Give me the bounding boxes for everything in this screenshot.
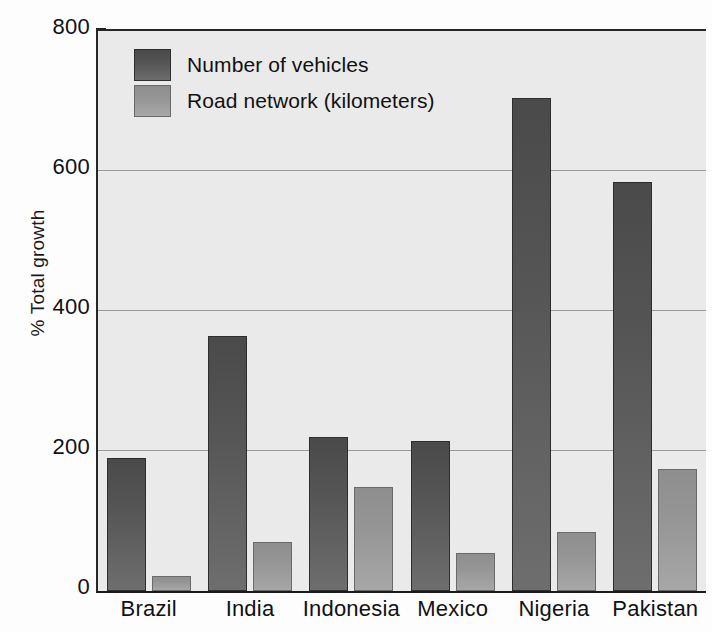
x-axis-ticks: BrazilIndiaIndonesiaMexicoNigeriaPakista… [98, 596, 706, 632]
legend-swatch-icon-number-of-vehicles [134, 49, 171, 81]
bar-india-series-0 [208, 336, 247, 592]
legend-item-road-network: Road network (kilometers) [134, 85, 474, 117]
x-tick-label-brazil: Brazil [98, 596, 199, 622]
bar-indonesia-series-1 [354, 487, 393, 591]
bar-mexico-series-1 [456, 553, 495, 592]
bar-chart-figure: % Total growth 0200400600800 Number of v… [0, 0, 712, 632]
legend-label-road-network: Road network (kilometers) [187, 89, 435, 113]
y-axis-ticks: 0200400600800 [12, 0, 90, 632]
bar-india-series-1 [253, 542, 292, 591]
y-tick-label: 200 [20, 434, 90, 460]
x-tick-label-india: India [199, 596, 300, 622]
y-tick-label: 600 [20, 154, 90, 180]
chart-legend: Number of vehicles Road network (kilomet… [134, 49, 474, 121]
x-tick-label-indonesia: Indonesia [301, 596, 402, 622]
bar-brazil-series-1 [152, 576, 191, 591]
plot-area: Number of vehicles Road network (kilomet… [96, 29, 706, 593]
legend-swatch-icon-road-network [134, 85, 171, 117]
x-tick-label-nigeria: Nigeria [503, 596, 604, 622]
legend-label-number-of-vehicles: Number of vehicles [187, 53, 369, 77]
bar-pakistan-series-0 [613, 182, 652, 592]
y-tick-label: 400 [20, 294, 90, 320]
bar-indonesia-series-0 [309, 437, 348, 591]
bar-nigeria-series-0 [512, 98, 551, 592]
bar-brazil-series-0 [107, 458, 146, 591]
bar-nigeria-series-1 [557, 532, 596, 592]
bar-pakistan-series-1 [658, 469, 697, 592]
y-tick-label: 800 [20, 14, 90, 40]
gridline [98, 170, 706, 171]
x-tick-label-pakistan: Pakistan [605, 596, 706, 622]
legend-item-number-of-vehicles: Number of vehicles [134, 49, 474, 81]
bar-mexico-series-0 [411, 441, 450, 592]
x-tick-label-mexico: Mexico [402, 596, 503, 622]
y-tick-label: 0 [20, 574, 90, 600]
